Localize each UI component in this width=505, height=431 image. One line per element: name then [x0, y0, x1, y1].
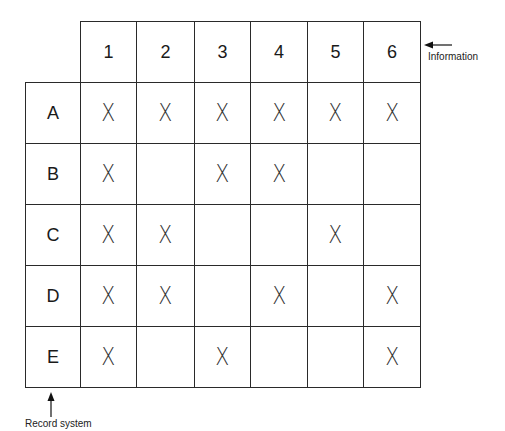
column-header-text: 3 [217, 42, 227, 63]
column-header-text: 4 [274, 42, 284, 63]
row-label: B [25, 143, 81, 205]
row-label: D [25, 265, 81, 327]
matrix-cell: X [80, 82, 137, 144]
matrix-cell [307, 265, 364, 327]
matrix-cell: X [136, 204, 195, 266]
matrix-cell [250, 204, 308, 266]
matrix-cell-text: X [101, 221, 115, 249]
matrix-cell [307, 326, 364, 388]
arrow-up-icon [46, 392, 56, 418]
matrix-cell [194, 204, 251, 266]
matrix-cell [307, 143, 364, 205]
row-label: C [25, 204, 81, 266]
matrix-cell: X [80, 326, 137, 388]
row-label: A [25, 82, 81, 144]
matrix-cell: X [136, 265, 195, 327]
matrix-cell: X [80, 265, 137, 327]
row-label-text: D [47, 286, 60, 307]
matrix-cell-text: X [158, 221, 172, 249]
arrow-left-icon [424, 40, 454, 50]
matrix-cell: X [80, 143, 137, 205]
matrix-cell-text: X [272, 99, 286, 127]
matrix-cell-text: X [215, 160, 229, 188]
matrix-cell-text: X [385, 343, 399, 371]
matrix-cell-text: X [272, 282, 286, 310]
row-label: E [25, 326, 81, 388]
matrix-cell: X [194, 326, 251, 388]
column-header: 6 [363, 21, 421, 83]
matrix-cell-text: X [158, 282, 172, 310]
row-label-text: A [47, 103, 59, 124]
matrix-cell-text: X [215, 343, 229, 371]
matrix-cell: X [80, 204, 137, 266]
matrix-cell-text: X [101, 282, 115, 310]
matrix-cell: X [307, 82, 364, 144]
column-header-text: 2 [160, 42, 170, 63]
column-header-text: 1 [103, 42, 113, 63]
matrix-cell: X [136, 82, 195, 144]
matrix-cell: X [250, 143, 308, 205]
matrix-cell: X [194, 143, 251, 205]
matrix-cell [194, 265, 251, 327]
matrix-cell: X [363, 265, 421, 327]
matrix-cell [136, 326, 195, 388]
record-system-label: Record system [25, 418, 92, 429]
matrix-cell-text: X [328, 99, 342, 127]
matrix-cell: X [250, 265, 308, 327]
matrix-cell-text: X [328, 221, 342, 249]
matrix-cell-text: X [215, 99, 229, 127]
matrix-cell-text: X [158, 99, 172, 127]
matrix-cell: X [363, 326, 421, 388]
column-header-text: 6 [387, 42, 397, 63]
matrix-cell-text: X [101, 343, 115, 371]
row-label-text: E [47, 347, 59, 368]
column-header-text: 5 [330, 42, 340, 63]
matrix-cell-text: X [272, 160, 286, 188]
matrix-cell: X [250, 82, 308, 144]
matrix-cell-text: X [385, 99, 399, 127]
matrix-cell-text: X [385, 282, 399, 310]
column-header: 1 [80, 21, 137, 83]
matrix-cell: X [307, 204, 364, 266]
matrix-cell: X [363, 82, 421, 144]
row-label-text: C [47, 225, 60, 246]
row-label-text: B [47, 164, 59, 185]
matrix-cell-text: X [101, 99, 115, 127]
matrix-cell-text: X [101, 160, 115, 188]
column-header: 2 [136, 21, 195, 83]
column-header: 4 [250, 21, 308, 83]
matrix-cell [136, 143, 195, 205]
matrix-cell: X [194, 82, 251, 144]
column-header: 5 [307, 21, 364, 83]
information-label: Information [428, 51, 478, 62]
matrix-cell [363, 143, 421, 205]
column-header: 3 [194, 21, 251, 83]
matrix-cell [363, 204, 421, 266]
matrix-cell [250, 326, 308, 388]
